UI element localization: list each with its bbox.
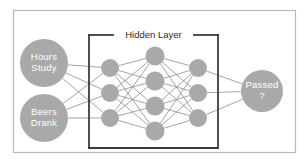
node-circle bbox=[146, 72, 165, 91]
connection-line bbox=[206, 99, 242, 114]
node-circle bbox=[189, 59, 207, 77]
node-h3-1 bbox=[189, 59, 207, 77]
node-label: Hours bbox=[31, 51, 57, 62]
connection-line bbox=[66, 96, 101, 109]
node-h1-1 bbox=[101, 59, 119, 77]
connection-line bbox=[207, 92, 241, 93]
node-h2-1 bbox=[146, 47, 165, 66]
connection-line bbox=[119, 120, 146, 128]
node-h2-4 bbox=[146, 122, 165, 141]
neural-network-diagram: HoursStudyBeersDrankPassed? Hidden Layer bbox=[0, 0, 307, 167]
node-out-1: Passed? bbox=[241, 70, 283, 112]
node-label: Beers bbox=[31, 106, 57, 117]
node-label: Drank bbox=[31, 117, 57, 128]
node-h3-3 bbox=[189, 109, 207, 127]
node-h3-2 bbox=[189, 84, 207, 102]
node-circle bbox=[101, 84, 119, 102]
node-label: Passed bbox=[246, 79, 279, 90]
node-circle bbox=[189, 109, 207, 127]
node-h1-3 bbox=[101, 109, 119, 127]
node-label: Study bbox=[31, 62, 56, 73]
hidden-layer-title: Hidden Layer bbox=[125, 29, 182, 40]
connection-line bbox=[66, 73, 102, 89]
connection-line bbox=[68, 65, 101, 68]
hidden-layer-title-text: Hidden Layer bbox=[125, 29, 182, 40]
node-h2-2 bbox=[146, 72, 165, 91]
node-in-2: BeersDrank bbox=[20, 94, 68, 142]
node-h1-2 bbox=[101, 84, 119, 102]
connection-line bbox=[62, 78, 103, 112]
connection-line bbox=[119, 58, 146, 65]
connection-line bbox=[117, 87, 148, 112]
node-label: ? bbox=[259, 90, 264, 101]
connection-line bbox=[63, 73, 103, 103]
node-circle bbox=[101, 109, 119, 127]
node-circle bbox=[146, 122, 165, 141]
connection-line bbox=[164, 121, 189, 129]
connection-line bbox=[206, 71, 242, 84]
node-in-1: HoursStudy bbox=[20, 39, 68, 87]
connection-line bbox=[117, 62, 148, 87]
node-circle bbox=[146, 47, 165, 66]
connection-line bbox=[160, 75, 193, 123]
network-nodes: HoursStudyBeersDrankPassed? bbox=[20, 39, 283, 142]
node-circle bbox=[146, 97, 165, 116]
node-circle bbox=[189, 84, 207, 102]
node-circle bbox=[101, 59, 119, 77]
diagram-canvas: HoursStudyBeersDrankPassed? Hidden Layer bbox=[0, 0, 307, 167]
connection-line bbox=[164, 59, 189, 66]
node-h2-3 bbox=[146, 97, 165, 116]
